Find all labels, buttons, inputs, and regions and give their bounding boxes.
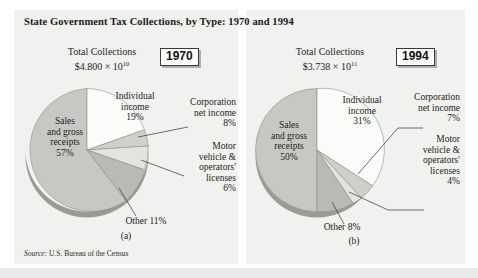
figure-canvas: State Government Tax Collections, by Typ… [0,0,478,278]
source-label: Source: [24,249,47,258]
label-corporation-net-income-1970: Corporation net income 8% [162,97,236,129]
total-collections-label-1970: Total Collections [32,46,172,58]
total-collections-value-1970: $4.800 × 1010 [32,58,172,73]
label-sales-gross-receipts-1970: Sales and gross receipts 57% [32,116,98,158]
label-other-1970: Other 11% [106,216,186,227]
source-note: Source: U.S. Bureau of the Census [24,249,129,258]
label-other-1994: Other 8% [304,222,380,233]
total-exponent-1970: 10 [123,60,130,67]
total-exponent-1994: 11 [351,60,357,67]
year-badge-1970[interactable]: 1970 [160,48,199,66]
year-badge-1994[interactable]: 1994 [396,48,435,66]
label-sales-gross-receipts-1994: Sales and gross receipts 50% [256,120,322,162]
caption-b: (b) [324,236,384,246]
label-motor-vehicle-licenses-1994: Motor vehicle & operators' licenses 4% [386,134,460,187]
total-collections-1994: Total Collections $3.738 × 1011 [260,46,400,73]
source-value: U.S. Bureau of the Census [47,249,128,258]
total-collections-value-1994: $3.738 × 1011 [260,58,400,73]
label-corporation-net-income-1994: Corporation net income 7% [386,92,460,124]
chart-1970: Total Collections $4.800 × 1010 1970 [14,0,238,278]
label-motor-vehicle-licenses-1970: Motor vehicle & operators' licenses 6% [162,141,236,194]
total-collections-1970: Total Collections $4.800 × 1010 [32,46,172,73]
label-individual-income-1970: Individual income 19% [100,91,170,123]
total-collections-label-1994: Total Collections [260,46,400,58]
caption-a: (a) [96,231,156,241]
chart-1994: Total Collections $3.738 × 1011 1994 [246,0,465,278]
